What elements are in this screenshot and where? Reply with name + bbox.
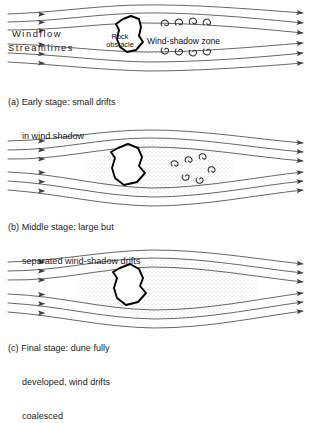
caption-c-line2: developed, wind drifts	[8, 377, 110, 388]
caption-b: (b) Middle stage: large but separated wi…	[8, 199, 140, 290]
caption-c-line3: coalesced	[8, 411, 110, 422]
caption-a-line1: Early stage: small drifts	[22, 97, 116, 107]
rock-label-line2: obstacle	[106, 40, 134, 49]
caption-b-line1: Middle stage: large but	[22, 222, 114, 232]
caption-a-marker: (a)	[8, 97, 19, 107]
windflow-label: Windflow	[12, 28, 62, 39]
caption-c-marker: (c)	[8, 343, 19, 353]
caption-b-line2: separated wind-shadow drifts	[8, 256, 140, 267]
caption-a: (a) Early stage: small drifts in wind sh…	[8, 74, 116, 165]
caption-a-line2: in wind shadow	[8, 131, 116, 142]
rock-obstacle-b	[111, 144, 145, 185]
caption-c: (c) Final stage: dune fully developed, w…	[8, 320, 110, 423]
wind-shadow-zone-label: Wind-shadow zone	[147, 36, 220, 46]
caption-b-marker: (b)	[8, 222, 19, 232]
caption-c-line1: Final stage: dune fully	[21, 343, 109, 353]
panel-a: Windflow Streamlines Rock obstacle Wind-…	[8, 5, 303, 71]
streamlines-label: Streamlines	[8, 42, 74, 53]
